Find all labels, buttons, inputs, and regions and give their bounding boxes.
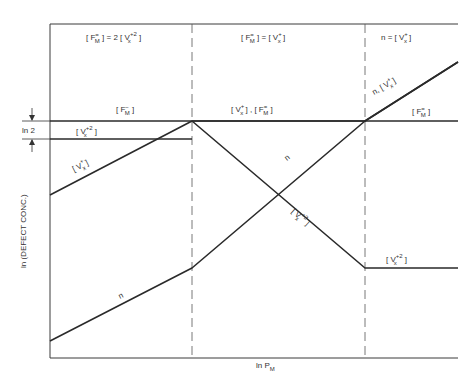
label-n-region2: n [283,153,292,163]
arrowhead-up-icon [29,139,35,145]
label-vx-fm-region2: [ V+x ] , [ F=M ] [231,103,273,116]
label-vx-region1: [ V+x ] [70,156,91,175]
label-fm-region3: [ F=M ] [412,106,430,118]
region-3-condition: n = [ V+x ] [381,31,411,44]
plot-frame [50,24,458,358]
vx2-curve [192,121,458,268]
x-axis-label-main: ln P [256,361,270,370]
label-n-region1: n [117,291,125,301]
label-vx2-region1: [ V+2x ] [76,125,97,138]
label-n-vx-region3: n, [ V+x ] [370,74,399,98]
label-vx2-region3: [ V+2x ] [386,253,407,266]
y-axis-label: ln (DEFECT CONC.) [19,194,28,268]
label-vx2-region2: [ V+2x ] [288,205,312,229]
region-2-condition: [ F=M ] = [ V+x ] [241,31,285,44]
label-fm-region1: [ F−M ] [116,104,134,116]
ln2-label: ln 2 [22,126,35,135]
brouwer-diagram: ln 2 [ F=M ] = 2 [ V+2x ] [ F=M ] = [ V+… [0,0,473,388]
arrowhead-down-icon [29,115,35,121]
vx-curve [50,62,458,195]
n-curve [50,62,458,341]
x-axis-label: ln PM [256,361,275,372]
x-axis-label-sub: M [270,366,275,372]
region-1-condition: [ F=M ] = 2 [ V+2x ] [86,31,141,44]
region-dividers [192,24,365,358]
curves [50,62,458,341]
